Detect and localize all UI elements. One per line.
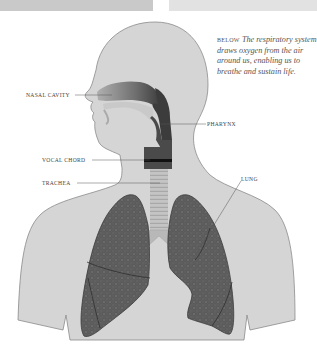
trachea-shape xyxy=(150,169,168,233)
label-pharynx: PHARYNX xyxy=(207,121,236,127)
label-nasal-cavity: NASAL CAVITY xyxy=(26,92,70,98)
figure-caption: BELOW The respiratory system draws oxyge… xyxy=(217,35,317,77)
vocal-chord-shape xyxy=(144,159,172,162)
label-trachea: TRACHEA xyxy=(42,180,71,186)
larynx-shape xyxy=(144,147,172,169)
label-vocal-chord: VOCAL CHORD xyxy=(42,157,85,163)
caption-lead: BELOW xyxy=(217,37,240,43)
label-lung: LUNG xyxy=(241,176,258,182)
